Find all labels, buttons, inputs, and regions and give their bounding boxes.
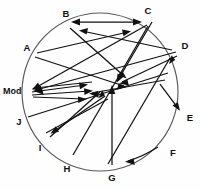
- node-label-c: C: [145, 5, 152, 16]
- node-label-d: D: [182, 40, 189, 51]
- node-label-b: B: [63, 8, 70, 19]
- node-label-g: G: [108, 172, 115, 183]
- diagram-canvas: A B C D E F G H I J Mod: [0, 0, 200, 189]
- edge-cross-extra: [46, 99, 108, 133]
- node-label-mod: Mod: [3, 86, 22, 96]
- arrowhead-mod-fan3: [78, 96, 87, 103]
- edge-a-hub: [35, 57, 124, 86]
- edge-group: [28, 19, 180, 165]
- node-label-i: I: [39, 142, 42, 153]
- node-label-a: A: [24, 42, 31, 53]
- arrowhead-d-b: [79, 28, 88, 35]
- arrowhead-f-g: [125, 158, 135, 165]
- edge-a-upright: [37, 32, 128, 53]
- node-label-h: H: [64, 163, 71, 174]
- edge-mod-fan3: [33, 97, 84, 99]
- circular-node-diagram: A B C D E F G H I J Mod: [0, 0, 200, 189]
- node-label-j: J: [16, 116, 21, 127]
- arrowhead-b: [71, 19, 80, 26]
- node-label-e: E: [187, 112, 193, 123]
- node-label-f: F: [170, 147, 176, 158]
